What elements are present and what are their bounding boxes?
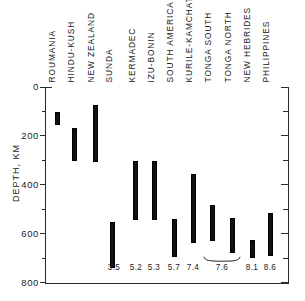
y-tick-major-400	[281, 184, 288, 185]
magnitude-label-7-6: 7.6	[216, 264, 229, 272]
y-tick-major-0	[40, 87, 47, 88]
bar-hindu-kush	[72, 128, 77, 161]
y-tick-label-800: 800	[21, 278, 39, 288]
magnitude-label-5-2: 5.2	[130, 264, 143, 272]
category-label-tonga-north: TONGA NORTH	[224, 11, 232, 82]
y-tick-major-800	[281, 282, 288, 283]
y-tick-major-600	[40, 233, 47, 234]
y-tick-minor-700	[42, 258, 47, 259]
category-label-izu-bonin: IZU-BONIN	[147, 31, 155, 82]
magnitude-label-7-4: 7.4	[187, 264, 200, 272]
category-label-kermadec: KERMADEC	[128, 27, 136, 82]
y-tick-minor-100	[42, 111, 47, 112]
category-label-sunda: SUNDA	[105, 48, 113, 82]
category-label-kurile-kamchatka: KURILE-KAMCHATKA	[185, 0, 193, 82]
y-tick-label-0: 0	[33, 82, 39, 92]
y-tick-label-400: 400	[21, 180, 39, 190]
magnitude-label-8-1: 8.1	[246, 264, 259, 272]
bar-south-america	[172, 219, 177, 257]
bar-new-hebrides	[250, 240, 255, 258]
magnitude-label-3-5: 3.5	[108, 264, 121, 272]
y-tick-minor-500	[42, 209, 47, 210]
bar-tonga-south	[210, 205, 215, 241]
y-tick-major-200	[40, 135, 47, 136]
bar-philippines	[268, 213, 273, 256]
category-label-south-america: SOUTH AMERICA	[166, 1, 174, 82]
category-label-roumania: ROUMANIA	[48, 30, 56, 82]
right-axis-line	[288, 87, 289, 284]
y-tick-minor-100	[283, 111, 288, 112]
magnitude-group-brace	[203, 256, 241, 262]
y-tick-minor-300	[42, 160, 47, 161]
y-tick-major-400	[40, 184, 47, 185]
bar-kermadec	[133, 161, 138, 220]
bar-izu-bonin	[152, 161, 157, 220]
y-tick-major-0	[281, 87, 288, 88]
y-tick-minor-700	[283, 258, 288, 259]
category-label-hindu-kush: HINDU-KUSH	[67, 20, 75, 82]
y-tick-major-600	[281, 233, 288, 234]
bar-sunda	[110, 222, 115, 268]
magnitude-label-5-3: 5.3	[148, 264, 161, 272]
category-label-new-hebrides: NEW HEBRIDES	[243, 7, 251, 82]
magnitude-label-8-6: 8.6	[264, 264, 277, 272]
y-axis-line	[45, 87, 46, 284]
y-tick-major-800	[40, 282, 47, 283]
depth-vs-region-chart: DEPTH, KM 0200400600800 ROUMANIAHINDU-KU…	[0, 0, 305, 301]
x-axis-line	[45, 283, 289, 284]
y-tick-label-200: 200	[21, 131, 39, 141]
bar-tonga-north	[230, 218, 235, 253]
category-label-new-zealand: NEW ZEALAND	[87, 12, 95, 82]
y-axis-title: DEPTH, KM	[11, 128, 21, 218]
category-label-tonga-south: TONGA SOUTH	[204, 11, 212, 82]
category-label-philippines: PHILIPPINES	[262, 20, 270, 82]
bar-new-zealand	[93, 105, 98, 162]
y-tick-major-200	[281, 135, 288, 136]
top-axis-stub	[45, 87, 52, 88]
bar-roumania	[55, 112, 60, 125]
y-tick-minor-500	[283, 209, 288, 210]
magnitude-label-5-7: 5.7	[168, 264, 181, 272]
bar-kurile-kamchatka	[191, 174, 196, 243]
y-tick-label-600: 600	[21, 229, 39, 239]
y-tick-minor-300	[283, 160, 288, 161]
